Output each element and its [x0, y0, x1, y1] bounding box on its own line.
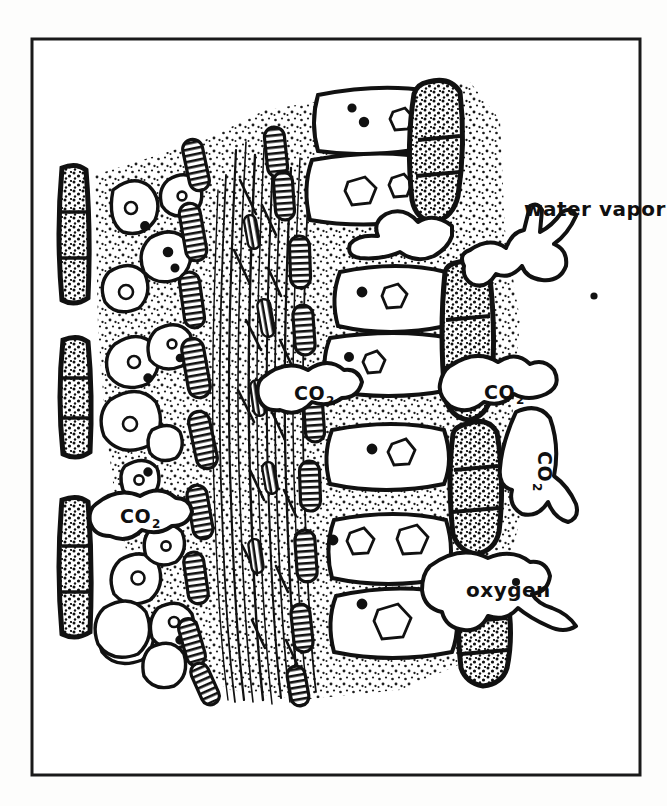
figure-root: water vapor oxygen CO 2 CO 2 CO 2 CO 2 — [0, 0, 667, 806]
epidermal-cell — [60, 337, 91, 457]
label-co2-center-subscript: 2 — [326, 394, 334, 408]
leaf-cross-section-diagram: water vapor oxygen CO 2 CO 2 CO 2 CO 2 — [0, 0, 667, 806]
label-co2-center-text: CO — [294, 382, 325, 404]
label-co2-left-subscript: 2 — [152, 517, 160, 531]
label-co2-right-text: CO — [484, 381, 515, 403]
label-co2-rotated-subscript: 2 — [530, 483, 544, 491]
left-epidermis-column — [59, 165, 91, 637]
stoma-guard-cell — [409, 80, 462, 222]
label-co2-left-text: CO — [120, 505, 151, 527]
label-water-vapor: water vapor — [524, 197, 666, 221]
label-co2-rotated-text: CO — [534, 451, 556, 482]
air-space-cell — [326, 424, 449, 490]
stoma-guard-cell — [450, 421, 502, 554]
label-oxygen: oxygen — [466, 578, 551, 602]
epidermal-cell — [59, 165, 89, 303]
label-co2-right-subscript: 2 — [516, 393, 524, 407]
epidermal-cell — [59, 497, 91, 637]
